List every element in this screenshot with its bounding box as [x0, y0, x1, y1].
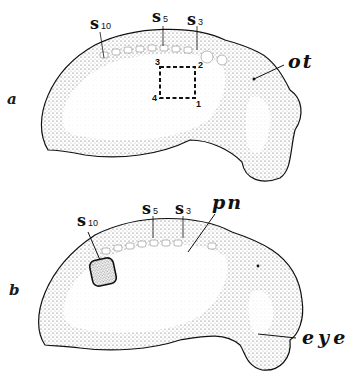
somite-number: 10 [101, 21, 111, 31]
label-eye: eye [302, 328, 349, 347]
somite-letter: s [187, 10, 196, 29]
panel-label-a: a [7, 90, 17, 108]
somite-letter: s [90, 14, 99, 33]
somite-number: 5 [153, 206, 158, 216]
embryo-b [39, 214, 303, 370]
label-pronephros: pn [212, 193, 243, 212]
somite-label-s10-b: s10 [77, 213, 98, 229]
embryo-figure: a s10 s5 s3 ot 3 2 4 1 b s10 s5 s3 pn ey… [0, 0, 357, 380]
somite-label-s3-b: s3 [175, 201, 191, 217]
somite-label-s10-a: s10 [90, 16, 111, 32]
somite-label-s3-a: s3 [187, 12, 203, 28]
somite-letter: s [77, 211, 86, 230]
label-otic: ot [288, 52, 313, 71]
somite-letter: s [175, 199, 184, 218]
somite-number: 10 [88, 218, 98, 228]
somite-letter: s [142, 199, 151, 218]
graft-corner-1: 1 [196, 100, 201, 109]
somite-number: 3 [186, 206, 191, 216]
somite-number: 5 [163, 14, 168, 24]
somite-label-s5-b: s5 [142, 201, 158, 217]
graft-corner-2: 2 [198, 61, 203, 70]
somite-number: 3 [198, 17, 203, 27]
somite-label-s5-a: s5 [152, 9, 168, 25]
somite-letter: s [152, 7, 161, 26]
graft-corner-3: 3 [155, 58, 160, 67]
panel-label-b: b [9, 281, 20, 299]
graft-block [89, 257, 118, 287]
embryo-a [41, 26, 301, 181]
graft-corner-4: 4 [152, 94, 157, 103]
